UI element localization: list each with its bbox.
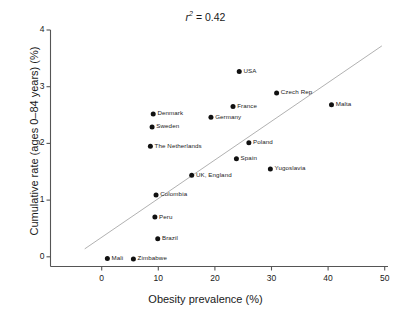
data-point	[268, 166, 273, 171]
data-point	[151, 111, 156, 116]
scatter-chart: r2 = 0.42 USACzech RepMaltaFranceDenmark…	[0, 0, 411, 316]
data-point-label: Yugoslavia	[275, 165, 306, 171]
data-point	[131, 257, 136, 262]
data-point-label: Poland	[253, 139, 273, 145]
x-tick-label: 50	[371, 273, 399, 283]
x-tick-label: 0	[88, 273, 116, 283]
plot-area	[0, 0, 411, 316]
data-point	[231, 104, 236, 109]
data-point	[246, 140, 251, 145]
data-point-label: Czech Rep	[281, 89, 313, 95]
data-point	[274, 90, 279, 95]
data-point	[152, 215, 157, 220]
data-point-label: Malta	[336, 101, 352, 107]
trendline-segment	[85, 46, 382, 249]
data-point	[329, 102, 334, 107]
data-point	[234, 156, 239, 161]
data-point-label: France	[237, 103, 257, 109]
data-point-label: Denmark	[157, 110, 183, 116]
data-point-label: The Netherlands	[155, 143, 202, 149]
data-point-label: USA	[243, 68, 256, 74]
data-point	[148, 144, 153, 149]
trendline	[85, 46, 382, 249]
data-point-label: Peru	[159, 214, 172, 220]
data-point	[105, 256, 110, 261]
data-point-label: Colombia	[160, 191, 187, 197]
x-tick-label: 20	[201, 273, 229, 283]
data-point	[150, 124, 155, 129]
data-point	[155, 236, 160, 241]
x-tick-label: 10	[144, 273, 172, 283]
x-axis-title: Obesity prevalence (%)	[0, 293, 411, 305]
data-point-label: Brazil	[162, 235, 178, 241]
x-tick-label: 40	[314, 273, 342, 283]
data-point	[154, 192, 159, 197]
data-point	[237, 69, 242, 74]
data-point-label: Sweden	[156, 123, 179, 129]
data-point-label: UK, England	[196, 172, 232, 178]
axes	[47, 30, 389, 271]
data-point-label: Germany	[215, 114, 241, 120]
data-point-label: Spain	[241, 155, 257, 161]
data-point	[189, 173, 194, 178]
data-point	[208, 115, 213, 120]
data-point-label: Mali	[112, 255, 124, 261]
data-point-label: Zimbabwe	[138, 255, 167, 261]
y-axis-title: Cumulative rate (ages 0–84 years) (%)	[28, 11, 40, 271]
x-tick-label: 30	[258, 273, 286, 283]
